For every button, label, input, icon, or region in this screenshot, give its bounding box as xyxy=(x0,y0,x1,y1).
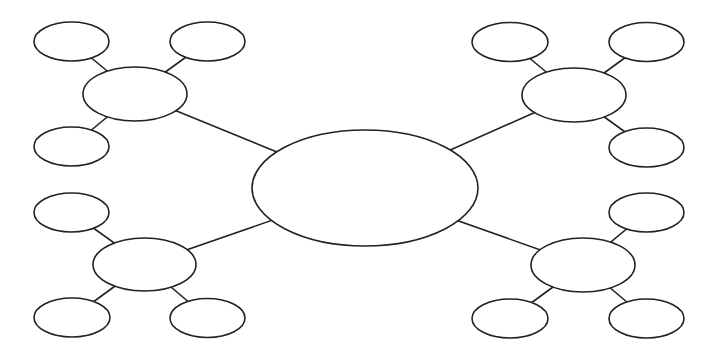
leaf-node-top-left-2[interactable] xyxy=(34,127,109,166)
leaf-node-bottom-right-2-shape xyxy=(609,299,684,338)
leaf-node-bottom-right-2[interactable] xyxy=(609,299,684,338)
leaf-node-bottom-right-0-shape xyxy=(609,193,684,232)
branch-node-bottom-right[interactable] xyxy=(531,238,635,292)
branch-node-bottom-left[interactable] xyxy=(93,238,196,291)
leaf-node-top-left-2-shape xyxy=(34,127,109,166)
leaf-node-bottom-left-2[interactable] xyxy=(170,299,245,338)
branch-node-top-left[interactable] xyxy=(83,67,187,121)
leaf-node-top-right-1-shape xyxy=(609,23,684,62)
central-node-shape xyxy=(252,130,478,246)
leaf-node-top-left-0[interactable] xyxy=(34,22,109,61)
branch-node-top-right[interactable] xyxy=(522,68,626,122)
leaf-node-bottom-left-0[interactable] xyxy=(34,193,109,232)
leaf-node-bottom-left-1[interactable] xyxy=(34,298,110,337)
leaf-node-top-right-2[interactable] xyxy=(609,128,684,167)
nodes xyxy=(34,22,684,338)
branch-node-bottom-left-shape xyxy=(93,238,196,291)
leaf-node-top-left-1-shape xyxy=(170,22,245,61)
central-node[interactable] xyxy=(252,130,478,246)
leaf-node-bottom-left-0-shape xyxy=(34,193,109,232)
leaf-node-bottom-right-0[interactable] xyxy=(609,193,684,232)
leaf-node-top-right-1[interactable] xyxy=(609,23,684,62)
leaf-node-top-left-1[interactable] xyxy=(170,22,245,61)
leaf-node-top-right-2-shape xyxy=(609,128,684,167)
leaf-node-top-left-0-shape xyxy=(34,22,109,61)
leaf-node-bottom-left-1-shape xyxy=(34,298,110,337)
branch-node-top-right-shape xyxy=(522,68,626,122)
leaf-node-bottom-right-1[interactable] xyxy=(472,299,548,338)
branch-node-bottom-right-shape xyxy=(531,238,635,292)
leaf-node-bottom-left-2-shape xyxy=(170,299,245,338)
leaf-node-bottom-right-1-shape xyxy=(472,299,548,338)
leaf-node-top-right-0[interactable] xyxy=(472,23,548,62)
leaf-node-top-right-0-shape xyxy=(472,23,548,62)
mind-map-canvas xyxy=(0,0,716,354)
branch-node-top-left-shape xyxy=(83,67,187,121)
